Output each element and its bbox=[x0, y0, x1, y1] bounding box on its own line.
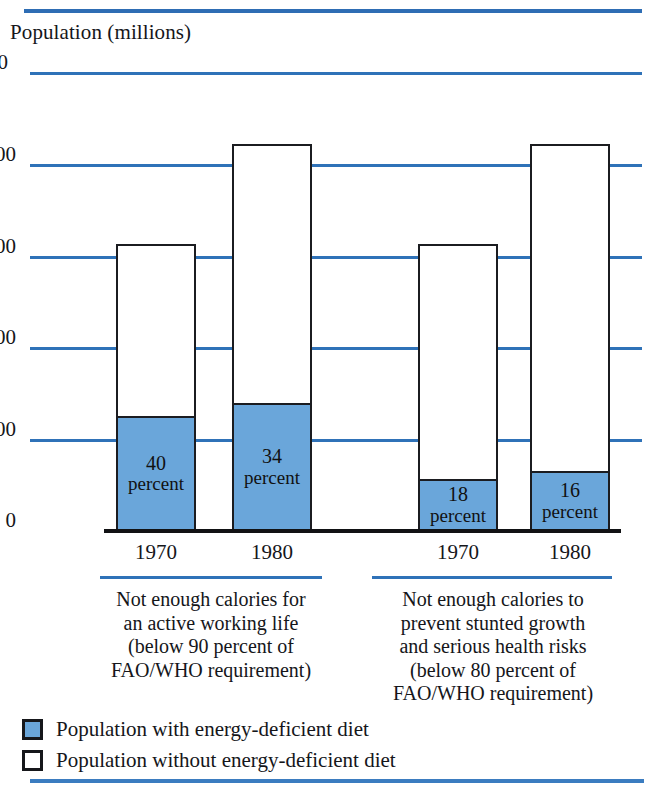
gridline-2500 bbox=[30, 72, 642, 75]
bar-percent-value-g2-1970: 18 bbox=[448, 484, 468, 505]
xtick-label-g1-1970: 1970 bbox=[96, 540, 216, 565]
ytick-label-1500: 1,500 bbox=[0, 234, 16, 259]
bar-percent-word-g1-1970: percent bbox=[128, 474, 184, 494]
bar-percent-value-g1-1980: 34 bbox=[262, 446, 282, 467]
bar-percent-word-g2-1980: percent bbox=[542, 502, 598, 522]
xtick-label-g2-1980: 1980 bbox=[510, 540, 630, 565]
legend-swatch-blue-icon bbox=[22, 719, 43, 740]
bar-segment-blue-g2-1980: 16 percent bbox=[530, 471, 610, 531]
figure: Population (millions) 2,500 2,000 1,500 … bbox=[0, 0, 647, 789]
bottom-rule bbox=[30, 779, 644, 783]
legend-swatch-white-icon bbox=[22, 750, 43, 771]
legend-label-without-deficient-diet: Population without energy-deficient diet bbox=[56, 748, 396, 773]
legend: Population with energy-deficient diet Po… bbox=[22, 714, 396, 776]
ytick-label-0: 0 bbox=[0, 508, 16, 533]
bar-percent-value-g1-1970: 40 bbox=[146, 453, 166, 474]
xtick-label-g2-1970: 1970 bbox=[398, 540, 518, 565]
group-underline-1 bbox=[100, 576, 322, 579]
bar-segment-blue-g1-1980: 34 percent bbox=[232, 403, 312, 531]
bar-percent-value-g2-1980: 16 bbox=[560, 480, 580, 501]
legend-item-with-deficient-diet: Population with energy-deficient diet bbox=[22, 714, 396, 745]
group-caption-2: Not enough calories to prevent stunted g… bbox=[362, 588, 624, 706]
bar-segment-blue-g1-1970: 40 percent bbox=[116, 416, 196, 531]
bar-percent-word-g1-1980: percent bbox=[244, 468, 300, 488]
ytick-label-2500: 2,500 bbox=[0, 50, 8, 75]
group-caption-1: Not enough calories for an active workin… bbox=[80, 588, 342, 682]
bar-segment-blue-g2-1970: 18 percent bbox=[418, 479, 498, 531]
xtick-label-g1-1980: 1980 bbox=[212, 540, 332, 565]
ytick-label-500: 500 bbox=[0, 417, 16, 442]
ytick-label-1000: 1,000 bbox=[0, 325, 16, 350]
plot-area: 2,500 2,000 1,500 1,000 500 0 40 percent… bbox=[0, 0, 647, 545]
ytick-label-2000: 2,000 bbox=[0, 142, 16, 167]
x-axis-baseline bbox=[104, 529, 621, 533]
legend-label-with-deficient-diet: Population with energy-deficient diet bbox=[56, 717, 369, 742]
group-underline-2 bbox=[372, 576, 612, 579]
bar-percent-word-g2-1970: percent bbox=[430, 506, 486, 526]
legend-item-without-deficient-diet: Population without energy-deficient diet bbox=[22, 745, 396, 776]
